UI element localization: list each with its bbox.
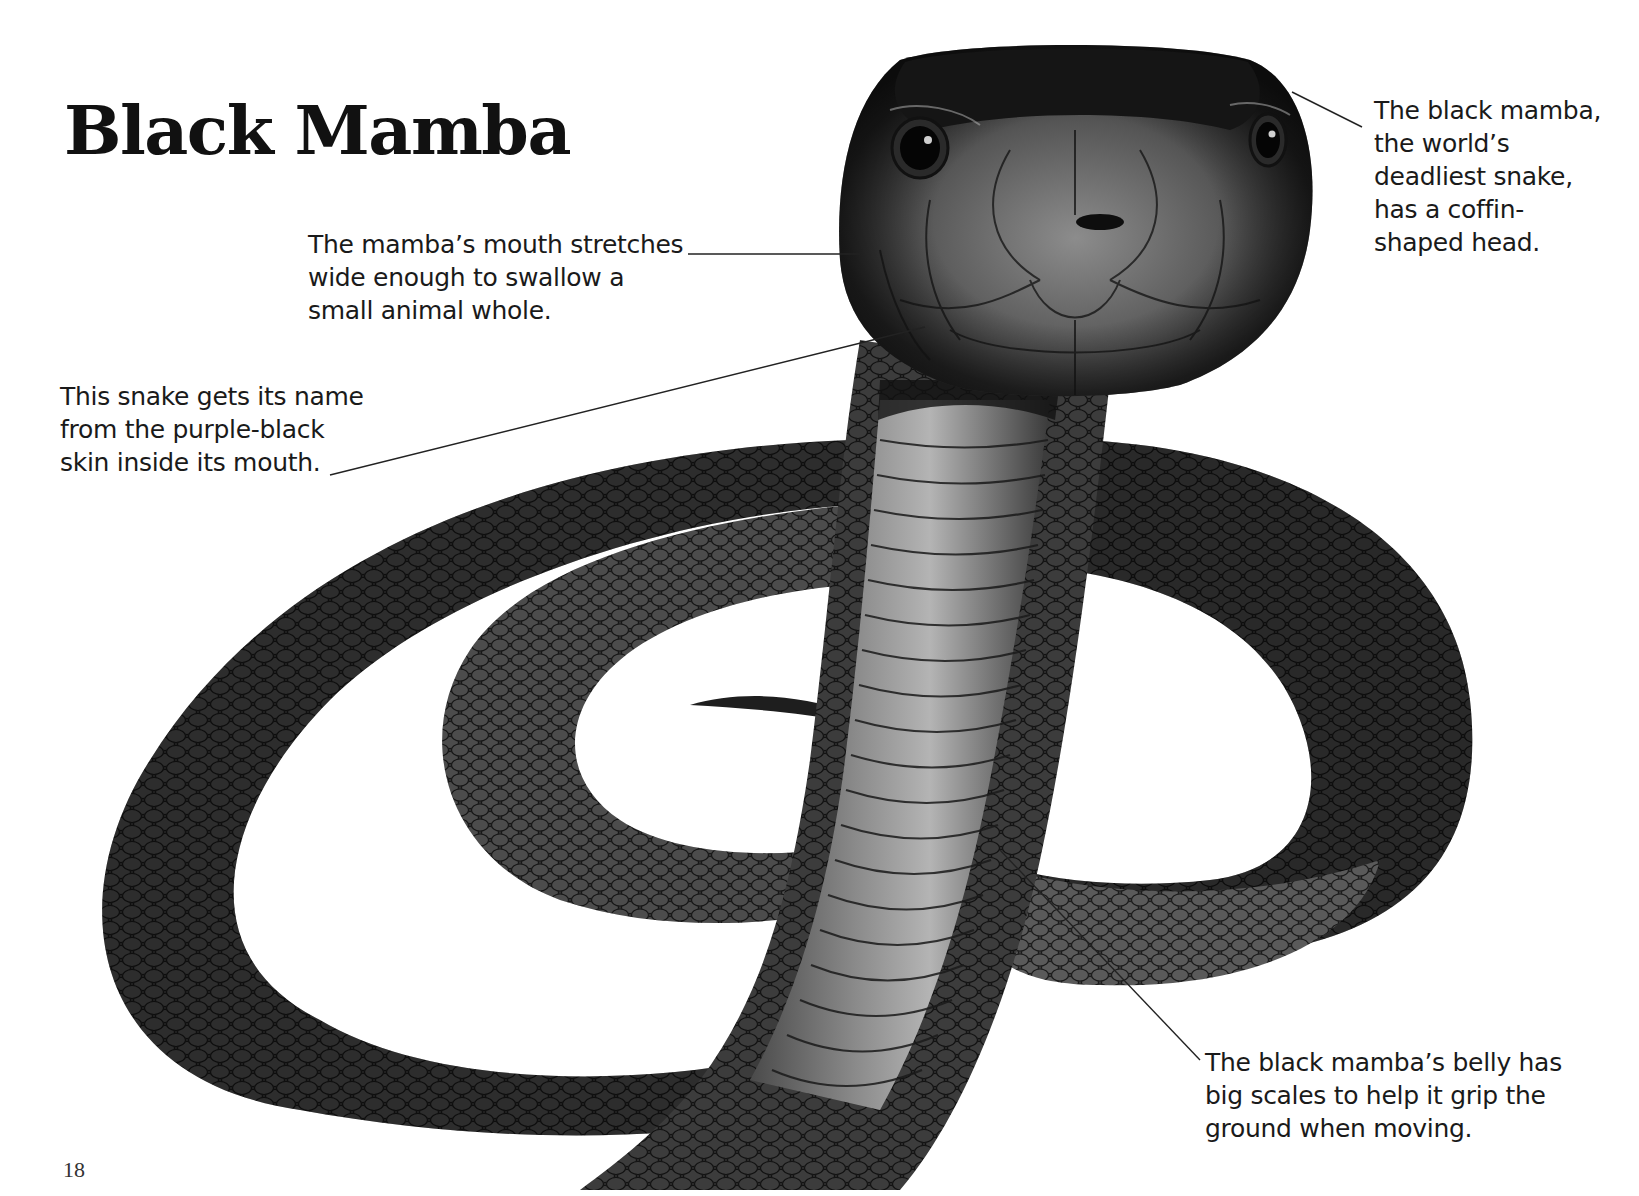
callout-line: The mamba’s mouth stretches [308, 228, 683, 261]
callout-line: ground when moving. [1205, 1112, 1562, 1145]
callout-line: the world’s [1374, 127, 1601, 160]
callout-head: The black mamba, the world’s deadliest s… [1374, 94, 1601, 259]
book-page: Black Mamba The mamba’s mouth stretches … [0, 0, 1639, 1196]
callout-line: The black mamba’s belly has [1205, 1046, 1562, 1079]
callout-mouth: The mamba’s mouth stretches wide enough … [308, 228, 683, 327]
page-number: 18 [63, 1157, 85, 1183]
snake-head [839, 45, 1312, 396]
callout-line: This snake gets its name [60, 380, 364, 413]
callout-belly: The black mamba’s belly has big scales t… [1205, 1046, 1562, 1145]
callout-line: big scales to help it grip the [1205, 1079, 1562, 1112]
callout-line: small animal whole. [308, 294, 683, 327]
callout-line: skin inside its mouth. [60, 446, 364, 479]
callout-line: from the purple-black [60, 413, 364, 446]
callout-line: shaped head. [1374, 226, 1601, 259]
callout-line: The black mamba, [1374, 94, 1601, 127]
callout-line: has a coffin- [1374, 193, 1601, 226]
callout-line: deadliest snake, [1374, 160, 1601, 193]
callout-line: wide enough to swallow a [308, 261, 683, 294]
leader-head [1292, 92, 1362, 127]
callout-name: This snake gets its name from the purple… [60, 380, 364, 479]
page-title: Black Mamba [64, 96, 570, 164]
